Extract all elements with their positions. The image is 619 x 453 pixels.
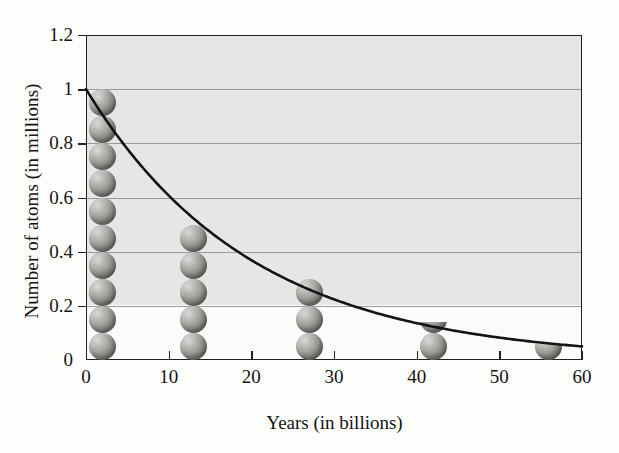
atom-sphere <box>296 306 323 333</box>
atom-sphere <box>180 225 207 252</box>
atom-sphere-partial <box>420 322 447 333</box>
atom-sphere <box>180 333 207 360</box>
y-tick-label-1.2: 1.2 <box>49 24 73 46</box>
x-tick-30 <box>334 351 335 360</box>
x-tick-10 <box>169 351 170 360</box>
x-tick-label-20: 20 <box>242 366 261 388</box>
x-tick-label-10: 10 <box>159 366 178 388</box>
atom-sphere <box>89 225 116 252</box>
x-tick-40 <box>417 351 418 360</box>
gridline-y-1.0 <box>87 89 581 90</box>
y-tick-0.4 <box>78 252 87 253</box>
gridline-y-0.4 <box>87 252 581 253</box>
y-tick-0.8 <box>78 143 87 144</box>
y-tick-label-0.2: 0.2 <box>49 294 73 316</box>
atom-sphere <box>180 306 207 333</box>
y-tick-label-0.4: 0.4 <box>49 240 73 262</box>
atom-sphere-partial <box>535 344 562 360</box>
x-tick-60 <box>582 351 583 360</box>
atom-sphere <box>89 198 116 225</box>
plot-area: 1.2 1 0.8 0.6 0.4 0.2 0 0 10 20 30 40 50… <box>86 35 582 360</box>
atom-sphere <box>89 306 116 333</box>
y-tick-0.6 <box>78 198 87 199</box>
x-tick-20 <box>251 351 252 360</box>
atom-sphere-body <box>535 344 562 360</box>
y-tick-label-0: 0 <box>64 349 74 371</box>
x-tick-label-60: 60 <box>573 366 592 388</box>
atom-sphere <box>180 252 207 279</box>
atom-sphere <box>296 279 323 306</box>
y-tick-0.2 <box>78 306 87 307</box>
x-tick-50 <box>499 351 500 360</box>
atom-sphere <box>420 333 447 360</box>
gridline-y-0.6 <box>87 198 581 199</box>
x-tick-0 <box>86 351 87 360</box>
y-axis-title: Number of atoms (in millions) <box>21 36 43 366</box>
y-tick-label-1: 1 <box>64 78 74 100</box>
y-tick-label-0.6: 0.6 <box>49 186 73 208</box>
x-tick-label-40: 40 <box>407 366 426 388</box>
atom-sphere-body <box>420 322 447 333</box>
x-tick-label-50: 50 <box>490 366 509 388</box>
atom-sphere <box>180 279 207 306</box>
atom-sphere <box>89 333 116 360</box>
x-tick-label-0: 0 <box>81 366 91 388</box>
x-tick-label-30: 30 <box>325 366 344 388</box>
atom-sphere <box>89 252 116 279</box>
atom-sphere <box>296 333 323 360</box>
x-axis-title: Years (in billions) <box>86 412 583 434</box>
chart-figure: Number of atoms (in millions) 1.2 1 0.8 … <box>0 0 619 453</box>
gridline-y-0.8 <box>87 143 581 144</box>
y-tick-1.2 <box>78 35 87 36</box>
gridline-y-0.2 <box>87 306 581 307</box>
y-tick-label-0.8: 0.8 <box>49 132 73 154</box>
y-tick-1 <box>78 89 87 90</box>
atom-sphere <box>89 279 116 306</box>
